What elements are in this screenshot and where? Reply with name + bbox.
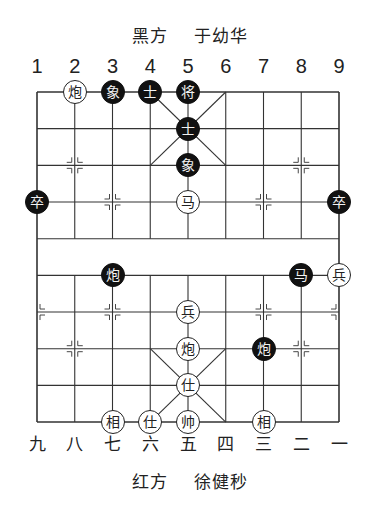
file-number-chinese: 四 xyxy=(214,430,238,455)
file-number-chinese: 三 xyxy=(252,430,276,455)
black-piece[interactable]: 卒 xyxy=(25,190,49,214)
red-piece[interactable]: 炮 xyxy=(176,337,200,361)
file-number-chinese: 一 xyxy=(327,430,351,455)
file-number-chinese: 八 xyxy=(63,430,87,455)
file-number-chinese: 五 xyxy=(176,430,200,455)
file-number-chinese: 二 xyxy=(289,430,313,455)
file-number-chinese: 七 xyxy=(101,430,125,455)
black-piece[interactable]: 象 xyxy=(101,80,125,104)
red-piece[interactable]: 炮 xyxy=(63,80,87,104)
red-player-name: 徐健秒 xyxy=(194,468,248,493)
black-piece[interactable]: 将 xyxy=(176,80,200,104)
bottom-file-numbers: 九八七六五四三二一 xyxy=(0,430,379,452)
red-side-label: 红方 xyxy=(132,468,168,493)
black-piece[interactable]: 炮 xyxy=(252,337,276,361)
black-piece[interactable]: 炮 xyxy=(101,263,125,287)
file-number-chinese: 九 xyxy=(25,430,49,455)
red-side-header: 红方徐健秒 xyxy=(0,468,379,493)
red-piece[interactable]: 马 xyxy=(176,190,200,214)
black-piece[interactable]: 卒 xyxy=(327,190,351,214)
red-piece[interactable]: 兵 xyxy=(176,300,200,324)
black-piece[interactable]: 士 xyxy=(176,117,200,141)
file-number-chinese: 六 xyxy=(138,430,162,455)
